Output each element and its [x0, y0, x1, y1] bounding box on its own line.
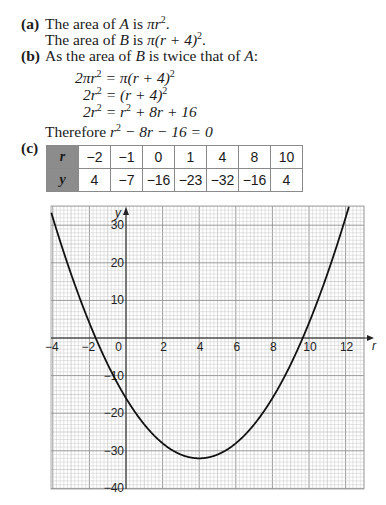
svg-text:10: 10 [111, 293, 125, 307]
svg-text:2: 2 [160, 340, 167, 354]
svg-text:10: 10 [303, 340, 317, 354]
svg-text:−4: −4 [45, 340, 59, 354]
svg-text:4: 4 [197, 340, 204, 354]
parabola-graph: −4−2024681012r302010−10−20−30−40y [0, 0, 386, 505]
svg-text:8: 8 [270, 340, 277, 354]
svg-text:30: 30 [111, 218, 125, 232]
svg-text:12: 12 [340, 340, 354, 354]
svg-text:−30: −30 [104, 444, 125, 458]
svg-text:−40: −40 [104, 481, 125, 495]
svg-text:r: r [372, 339, 377, 353]
svg-text:y: y [114, 206, 122, 220]
svg-text:−2: −2 [82, 340, 96, 354]
svg-text:−20: −20 [104, 406, 125, 420]
svg-text:6: 6 [233, 340, 240, 354]
svg-text:20: 20 [111, 256, 125, 270]
svg-text:0: 0 [115, 340, 122, 354]
graph-paper-grid [51, 206, 364, 489]
